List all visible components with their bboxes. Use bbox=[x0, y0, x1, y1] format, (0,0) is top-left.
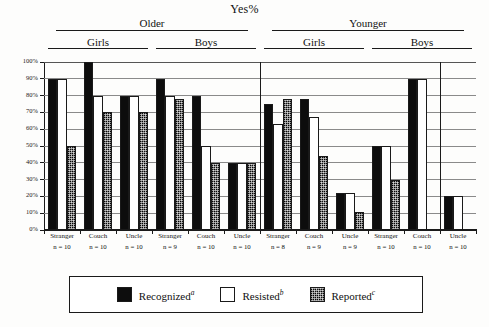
x-category-label: Unclen = 10 bbox=[116, 232, 152, 251]
supergroup-rule bbox=[56, 30, 248, 31]
x-category-n: n = 9 bbox=[332, 242, 368, 252]
bar-reported bbox=[211, 163, 220, 230]
bar-group bbox=[368, 62, 404, 230]
x-category-name: Uncle bbox=[440, 232, 476, 242]
y-tick-label-10: 10% bbox=[0, 209, 38, 216]
subgroup-label: Boys bbox=[372, 36, 472, 48]
bar-reported bbox=[67, 146, 76, 230]
bar-resisted bbox=[345, 193, 354, 230]
y-tick-label-70: 70% bbox=[0, 108, 38, 115]
bar-recognized bbox=[84, 62, 93, 230]
bars-layer bbox=[44, 62, 476, 230]
legend-item-recognized: Recognizeda bbox=[117, 287, 195, 302]
bar-group bbox=[404, 62, 440, 230]
bar-reported bbox=[319, 156, 328, 230]
y-tick-label-20: 20% bbox=[0, 192, 38, 199]
bar-group bbox=[332, 62, 368, 230]
bar-resisted bbox=[309, 117, 318, 230]
x-category-label: Couchn = 10 bbox=[188, 232, 224, 251]
supergroup-header-older: Older bbox=[56, 17, 248, 31]
bar-resisted bbox=[273, 124, 282, 230]
bar-resisted bbox=[57, 79, 66, 230]
subgroup-rule bbox=[264, 48, 364, 49]
legend-swatch-resisted bbox=[220, 287, 235, 302]
subgroup-rule bbox=[372, 48, 472, 49]
chart-title: Yes% bbox=[0, 2, 489, 17]
y-tick-label-30: 30% bbox=[0, 176, 38, 183]
bar-group bbox=[116, 62, 152, 230]
bar-resisted bbox=[453, 196, 462, 230]
bar-group bbox=[188, 62, 224, 230]
x-category-label: Unclen = 10 bbox=[224, 232, 260, 251]
bar-reported bbox=[139, 112, 148, 230]
supergroup-rule bbox=[272, 30, 464, 31]
x-category-name: Uncle bbox=[224, 232, 260, 242]
x-category-n: n = 10 bbox=[188, 242, 224, 252]
bar-resisted bbox=[237, 163, 246, 230]
category-separator bbox=[476, 229, 477, 234]
legend-label-recognized: Recognizeda bbox=[139, 288, 195, 302]
x-category-n: n = 10 bbox=[404, 242, 440, 252]
legend-item-resisted: Resistedb bbox=[220, 287, 283, 302]
x-category-label: Unclen = 9 bbox=[332, 232, 368, 251]
bar-group bbox=[224, 62, 260, 230]
x-category-label: Unclen = 10 bbox=[440, 232, 476, 251]
y-tick-label-60: 60% bbox=[0, 125, 38, 132]
subgroup-header-girls: Girls bbox=[48, 36, 148, 49]
plot-area bbox=[44, 62, 476, 230]
x-category-name: Couch bbox=[188, 232, 224, 242]
bar-recognized bbox=[444, 196, 453, 230]
x-category-name: Stranger bbox=[152, 232, 188, 242]
y-tick-label-100: 100% bbox=[0, 58, 38, 65]
bar-recognized bbox=[228, 163, 237, 230]
bar-recognized bbox=[408, 79, 417, 230]
bar-reported bbox=[103, 112, 112, 230]
x-category-label: Strangern = 10 bbox=[368, 232, 404, 251]
x-category-n: n = 10 bbox=[224, 242, 260, 252]
x-category-label: Couchn = 10 bbox=[80, 232, 116, 251]
bar-recognized bbox=[264, 104, 273, 230]
y-tick-label-90: 90% bbox=[0, 75, 38, 82]
x-category-label: Couchn = 9 bbox=[296, 232, 332, 251]
bar-recognized bbox=[192, 96, 201, 230]
x-category-n: n = 10 bbox=[440, 242, 476, 252]
bar-recognized bbox=[156, 79, 165, 230]
subgroup-label: Girls bbox=[264, 36, 364, 48]
chart-legend: Recognizeda Resistedb Reportedc bbox=[69, 276, 423, 313]
bar-resisted bbox=[201, 146, 210, 230]
x-category-label: Strangern = 8 bbox=[260, 232, 296, 251]
x-category-label: Couchn = 10 bbox=[404, 232, 440, 251]
x-category-n: n = 9 bbox=[296, 242, 332, 252]
bar-reported bbox=[391, 180, 400, 230]
bar-group bbox=[296, 62, 332, 230]
bar-reported bbox=[355, 212, 364, 230]
x-category-n: n = 8 bbox=[260, 242, 296, 252]
bar-group bbox=[152, 62, 188, 230]
subgroup-rule bbox=[48, 48, 148, 49]
x-category-n: n = 9 bbox=[152, 242, 188, 252]
legend-label-resisted: Resistedb bbox=[242, 288, 283, 302]
bar-reported bbox=[283, 99, 292, 230]
supergroup-label: Older bbox=[56, 17, 248, 29]
subgroup-header-boys: Boys bbox=[156, 36, 256, 49]
bar-recognized bbox=[300, 99, 309, 230]
x-category-n: n = 10 bbox=[44, 242, 80, 252]
bar-recognized bbox=[120, 96, 129, 230]
x-category-name: Uncle bbox=[332, 232, 368, 242]
subgroup-label: Girls bbox=[48, 36, 148, 48]
x-category-n: n = 10 bbox=[116, 242, 152, 252]
bar-resisted bbox=[417, 79, 426, 230]
bar-resisted bbox=[381, 146, 390, 230]
x-category-name: Uncle bbox=[116, 232, 152, 242]
supergroup-header-younger: Younger bbox=[272, 17, 464, 31]
bar-resisted bbox=[93, 96, 102, 230]
bar-resisted bbox=[165, 96, 174, 230]
legend-item-reported: Reportedc bbox=[310, 287, 376, 302]
legend-swatch-reported bbox=[310, 287, 325, 302]
bar-recognized bbox=[372, 146, 381, 230]
x-category-n: n = 10 bbox=[368, 242, 404, 252]
x-category-name: Couch bbox=[296, 232, 332, 242]
subgroup-rule bbox=[156, 48, 256, 49]
bar-group bbox=[440, 62, 476, 230]
bar-recognized bbox=[336, 193, 345, 230]
